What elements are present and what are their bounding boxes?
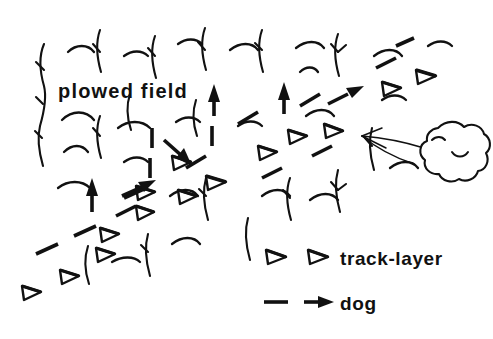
dog-arrowhead-up-right [278,82,290,100]
legend-label-track-layer: track-layer [340,248,443,269]
legend-label-dog: dog [340,293,377,314]
bush-shape [420,122,490,182]
dog-arrowhead-up-center [208,84,220,102]
dog-arrowhead-upper-right [346,86,364,98]
legend-symbol-dog [264,296,334,308]
field-label: plowed field [58,80,188,102]
vegetation-arcs [58,40,452,263]
legend-dog-arrowhead [318,296,334,308]
legend-symbol-track-layer [266,250,328,264]
diagram-canvas: plowed field track-layer dog [0,0,493,339]
plowed-field-diagram: plowed field track-layer dog [0,0,493,339]
dog-trail [36,38,414,254]
